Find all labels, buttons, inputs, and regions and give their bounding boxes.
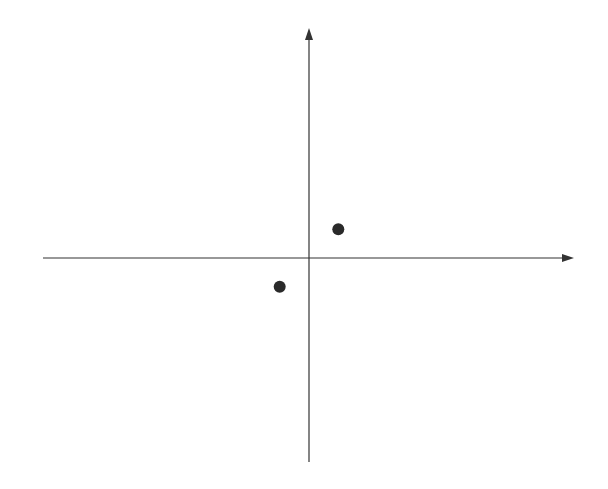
point-neg1-neg1: [274, 281, 286, 293]
point-1-1: [332, 223, 344, 235]
x-axis-arrow-icon: [562, 254, 574, 262]
hyperbola-chart: [0, 0, 608, 489]
y-axis-arrow-icon: [305, 28, 313, 40]
